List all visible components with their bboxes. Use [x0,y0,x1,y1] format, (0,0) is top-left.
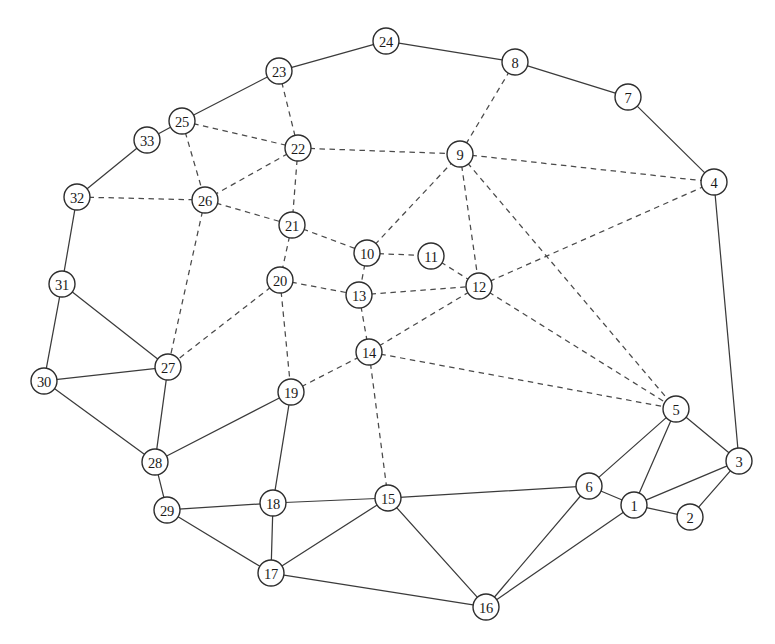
node-7[interactable]: 7 [615,84,641,110]
node-circle-27[interactable] [155,354,181,380]
node-13[interactable]: 13 [346,282,372,308]
node-31[interactable]: 31 [49,271,75,297]
edge-16-1 [495,512,624,601]
edge-32-31 [64,208,75,272]
edge-18-15 [284,499,376,503]
node-17[interactable]: 17 [258,560,284,586]
edge-4-3 [715,193,738,449]
edge-24-23 [290,44,375,68]
edge-32-26 [89,197,194,199]
node-circle-31[interactable] [49,271,75,297]
node-circle-32[interactable] [64,184,90,210]
node-circle-24[interactable] [373,28,399,54]
node-33[interactable]: 33 [134,127,160,153]
node-circle-1[interactable] [621,492,647,518]
node-circle-9[interactable] [447,141,473,167]
node-26[interactable]: 26 [192,187,218,213]
node-22[interactable]: 22 [285,135,311,161]
edge-30-27 [55,368,156,379]
node-23[interactable]: 23 [266,58,292,84]
edge-14-5 [380,354,664,407]
node-9[interactable]: 9 [447,141,473,167]
node-29[interactable]: 29 [154,497,180,523]
node-circle-7[interactable] [615,84,641,110]
edge-5-3 [685,416,730,453]
edge-18-17 [271,515,272,562]
node-circle-23[interactable] [266,58,292,84]
node-circle-12[interactable] [466,273,492,299]
node-circle-22[interactable] [285,135,311,161]
node-circle-4[interactable] [701,169,727,195]
node-30[interactable]: 30 [31,368,57,394]
edge-26-21 [216,203,281,222]
node-12[interactable]: 12 [466,273,492,299]
node-circle-20[interactable] [267,267,293,293]
edge-9-4 [471,155,702,180]
node-21[interactable]: 21 [279,212,305,238]
edge-17-15 [281,504,379,567]
node-circle-14[interactable] [356,339,382,365]
node-circle-13[interactable] [346,282,372,308]
edge-20-13 [291,282,347,293]
edge-33-32 [86,147,138,189]
node-circle-16[interactable] [473,594,499,620]
edge-9-8 [466,72,509,144]
node-circle-33[interactable] [134,127,160,153]
node-circle-15[interactable] [375,485,401,511]
edge-29-17 [177,516,261,567]
node-4[interactable]: 4 [701,169,727,195]
node-circle-21[interactable] [279,212,305,238]
node-8[interactable]: 8 [502,49,528,75]
edge-28-19 [165,397,281,456]
node-circle-11[interactable] [418,243,444,269]
node-18[interactable]: 18 [260,490,286,516]
node-6[interactable]: 6 [576,473,602,499]
edge-17-16 [282,575,474,605]
node-5[interactable]: 5 [663,396,689,422]
node-32[interactable]: 32 [64,184,90,210]
node-20[interactable]: 20 [267,267,293,293]
edge-26-27 [170,211,202,356]
node-circle-10[interactable] [354,240,380,266]
edge-31-27 [71,291,159,360]
node-3[interactable]: 3 [726,448,752,474]
node-circle-25[interactable] [169,108,195,134]
node-circle-3[interactable] [726,448,752,474]
node-circle-6[interactable] [576,473,602,499]
edge-23-22 [282,82,295,137]
node-circle-18[interactable] [260,490,286,516]
node-circle-2[interactable] [677,504,703,530]
node-11[interactable]: 11 [418,243,444,269]
edge-15-16 [396,507,479,599]
node-circle-8[interactable] [502,49,528,75]
edge-1-5 [639,420,672,495]
node-14[interactable]: 14 [356,339,382,365]
node-25[interactable]: 25 [169,108,195,134]
node-2[interactable]: 2 [677,504,703,530]
node-circle-17[interactable] [258,560,284,586]
edge-25-22 [193,124,287,146]
node-19[interactable]: 19 [278,379,304,405]
node-10[interactable]: 10 [354,240,380,266]
node-1[interactable]: 1 [621,492,647,518]
edge-1-2 [645,507,679,514]
edge-6-5 [598,417,668,479]
network-graph-figure: 1234567891011121314151617181920212223242… [0,0,775,644]
node-circle-26[interactable] [192,187,218,213]
node-circle-28[interactable] [142,449,168,475]
node-circle-5[interactable] [663,396,689,422]
node-16[interactable]: 16 [473,594,499,620]
node-28[interactable]: 28 [142,449,168,475]
node-27[interactable]: 27 [155,354,181,380]
node-circle-30[interactable] [31,368,57,394]
node-circle-19[interactable] [278,379,304,405]
graph-canvas: 1234567891011121314151617181920212223242… [0,0,775,644]
node-15[interactable]: 15 [375,485,401,511]
edge-22-26 [215,154,288,195]
edge-6-1 [600,490,624,500]
edge-21-20 [282,236,289,269]
node-24[interactable]: 24 [373,28,399,54]
edge-30-28 [53,388,145,455]
node-circle-29[interactable] [154,497,180,523]
edge-9-12 [462,165,478,274]
